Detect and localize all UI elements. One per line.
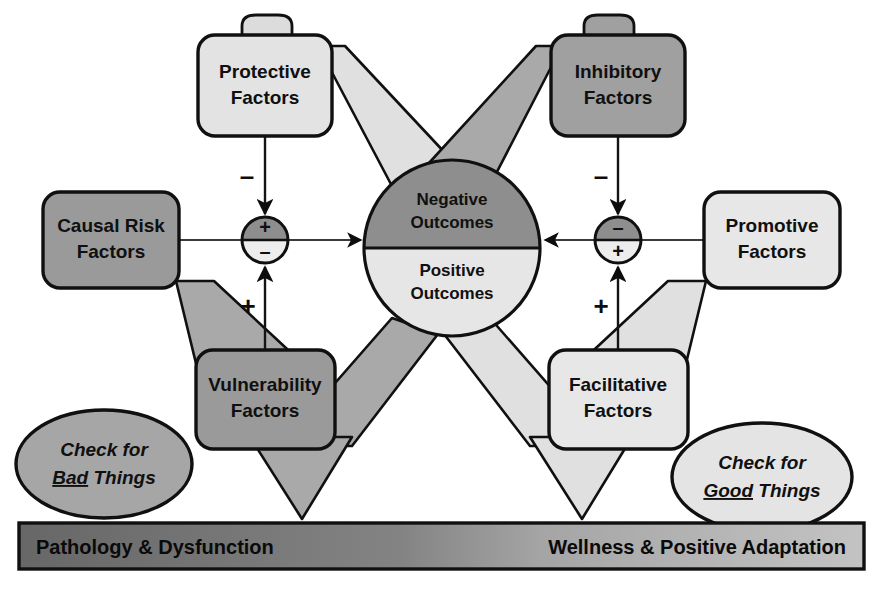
banner-left-label: Pathology & Dysfunction: [36, 536, 274, 558]
facilitative-edge-sign: +: [593, 291, 608, 321]
causal-risk-factors-label-line2: Factors: [77, 241, 146, 262]
ellipse-check-good-things[interactable]: Check for Good Things: [672, 423, 852, 531]
left-junction: + –: [240, 215, 290, 266]
box-vulnerability-factors[interactable]: Vulnerability Factors: [196, 350, 335, 449]
vulnerability-edge-sign: +: [240, 291, 255, 321]
risk-resilience-diagram: Negative Outcomes Positive Outcomes: [0, 0, 882, 590]
promotive-factors-label-line1: Promotive: [726, 215, 819, 236]
check-good-line2: Good Things: [703, 480, 820, 501]
negative-outcomes-label-line2: Outcomes: [410, 213, 493, 232]
check-good-emph: Good: [703, 480, 753, 501]
right-junction-top-sign: –: [612, 216, 623, 238]
box-facilitative-factors[interactable]: Facilitative Factors: [549, 350, 688, 449]
check-good-rest: Things: [753, 480, 821, 501]
negative-outcomes-label-line1: Negative: [417, 190, 488, 209]
spectrum-banner: Pathology & Dysfunction Wellness & Posit…: [19, 523, 864, 569]
facilitative-factors-label-line2: Factors: [584, 400, 653, 421]
box-protective-factors[interactable]: Protective Factors: [198, 35, 332, 136]
protective-factors-label-line2: Factors: [231, 87, 300, 108]
facilitative-factors-label-line1: Facilitative: [569, 374, 667, 395]
inhibitory-factors-label-line1: Inhibitory: [575, 61, 662, 82]
inhibitory-edge-sign: –: [594, 161, 608, 191]
positive-outcomes-label-line1: Positive: [419, 261, 484, 280]
check-bad-line1: Check for: [60, 439, 149, 460]
right-junction-bottom-sign: +: [612, 240, 624, 262]
inhibitory-factors-label-line2: Factors: [584, 87, 653, 108]
box-promotive-factors[interactable]: Promotive Factors: [704, 192, 840, 288]
ellipse-check-bad-things[interactable]: Check for Bad Things: [16, 410, 192, 518]
causal-risk-factors-label-line1: Causal Risk: [57, 215, 165, 236]
check-bad-line2: Bad Things: [52, 467, 155, 488]
outcome-circle: Negative Outcomes Positive Outcomes: [360, 158, 544, 342]
box-causal-risk-factors[interactable]: Causal Risk Factors: [43, 192, 179, 288]
protective-edge-sign: –: [240, 161, 254, 191]
check-bad-rest: Things: [88, 467, 156, 488]
box-inhibitory-factors[interactable]: Inhibitory Factors: [551, 35, 685, 136]
left-junction-top-sign: +: [259, 216, 271, 238]
promotive-factors-label-line2: Factors: [738, 241, 807, 262]
right-junction: – +: [593, 215, 643, 266]
banner-right-label: Wellness & Positive Adaptation: [548, 536, 846, 558]
protective-factors-label-line1: Protective: [219, 61, 311, 82]
vulnerability-factors-label-line1: Vulnerability: [208, 374, 322, 395]
diagram-canvas: Negative Outcomes Positive Outcomes: [0, 0, 882, 590]
left-junction-bottom-sign: –: [259, 240, 270, 262]
check-good-line1: Check for: [718, 452, 807, 473]
vulnerability-factors-label-line2: Factors: [231, 400, 300, 421]
check-bad-emph: Bad: [52, 467, 88, 488]
positive-outcomes-label-line2: Outcomes: [410, 284, 493, 303]
